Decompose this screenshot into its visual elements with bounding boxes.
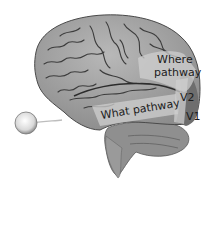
cerebellum <box>105 122 189 178</box>
v2-label: V2 <box>180 92 195 103</box>
where-pathway-label-line1: Where <box>157 54 193 65</box>
v1-label: V1 <box>186 111 201 122</box>
where-pathway-label-line2: pathway <box>154 67 201 78</box>
eye-with-optic-nerve <box>15 112 62 134</box>
eye-icon <box>15 112 37 134</box>
